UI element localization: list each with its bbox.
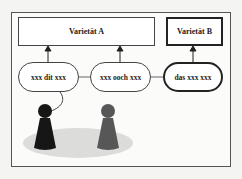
utterance-oval-1: xxx dit xxx: [18, 62, 79, 92]
utterance-label: xxx dit xxx: [31, 73, 66, 82]
utterance-label: das xxx xxx: [174, 73, 211, 82]
arrowhead-icon: [45, 46, 51, 51]
arrowhead-icon: [190, 46, 196, 51]
utterance-oval-3: das xxx xxx: [163, 62, 223, 92]
variety-b-label: Varietät B: [177, 27, 212, 36]
variety-a-label: Varietät A: [69, 27, 104, 36]
listener-pawn-icon: [97, 104, 119, 150]
variety-b-box: Varietät B: [166, 17, 223, 46]
arrowhead-icon: [117, 46, 123, 51]
utterance-oval-2: xxx ooch xxx: [90, 62, 151, 92]
utterance-label: xxx ooch xxx: [100, 73, 141, 82]
variety-a-box: Varietät A: [18, 17, 155, 46]
